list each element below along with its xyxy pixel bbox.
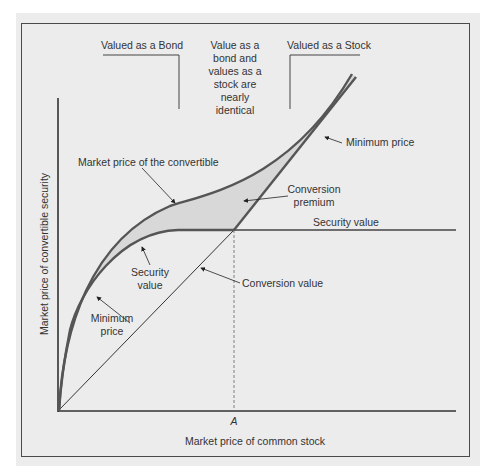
label-minimum-price-upper: Minimum price <box>346 136 414 148</box>
market-price-curve <box>59 74 352 411</box>
region-label-bond: Valued as a Bond <box>101 39 183 51</box>
region-label-middle-4: stock are <box>214 78 257 90</box>
label-conversion-premium-1: Conversion <box>287 183 340 195</box>
premium-shading <box>59 74 356 411</box>
region-label-middle-2: bond and <box>213 52 257 64</box>
x-axis-label: Market price of common stock <box>185 435 326 447</box>
label-conversion-value: Conversion value <box>242 277 323 289</box>
region-label-middle-1: Value as a <box>211 39 260 51</box>
region-label-stock: Valued as a Stock <box>287 39 372 51</box>
y-axis-label: Market price of convertible security <box>38 172 50 335</box>
label-security-value-line: Security value <box>313 216 379 228</box>
label-minimum-price-lower-1: Minimum <box>91 312 134 324</box>
label-security-value-curve-2: value <box>137 279 162 291</box>
region-label-middle-5: nearly <box>221 91 250 103</box>
region-label-middle-6: identical <box>216 104 255 116</box>
label-conversion-premium-2: premium <box>294 196 335 208</box>
x-marker-label: A <box>229 415 237 427</box>
conversion-value-line <box>58 230 234 411</box>
label-market-price-convertible: Market price of the convertible <box>78 156 219 168</box>
convertible-valuation-diagram: Valued as a Bond Value as a bond and val… <box>0 0 489 475</box>
label-minimum-price-lower-2: price <box>101 325 124 337</box>
label-security-value-curve-1: Security <box>131 266 170 278</box>
region-label-middle-3: values as a <box>208 65 261 77</box>
